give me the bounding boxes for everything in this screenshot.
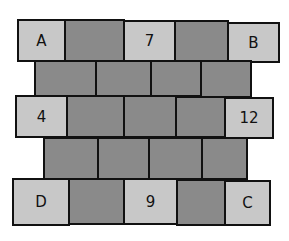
brick [97,137,150,180]
brick-d: D [12,178,70,226]
brick-wall: A 7 B 4 12 D 9 C [0,0,289,241]
brick-12: 12 [224,97,274,139]
brick-a: A [17,19,66,62]
brick-9: 9 [123,178,178,225]
brick [201,137,248,180]
brick [176,179,226,226]
brick [66,95,125,138]
brick-4: 4 [15,95,68,138]
brick [95,60,152,97]
brick [174,20,229,62]
brick [150,60,202,97]
brick-b: B [227,22,280,63]
brick [68,178,125,225]
brick-7: 7 [123,20,176,62]
brick-c: C [224,180,271,226]
brick [43,137,99,180]
brick [123,95,177,138]
brick [148,137,203,180]
brick [200,60,252,98]
brick [64,19,125,62]
brick [34,60,97,97]
brick [175,96,226,138]
